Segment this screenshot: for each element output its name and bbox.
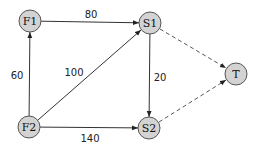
edge-s1-t xyxy=(160,29,226,68)
node-f2: F2 xyxy=(18,116,40,138)
node-s2: S2 xyxy=(138,117,160,139)
node-f1: F1 xyxy=(19,10,41,32)
edge-f2-s1 xyxy=(38,30,141,120)
node-label-s2: S2 xyxy=(142,122,157,135)
edge-f2-s2 xyxy=(40,127,138,128)
edge-s2-t xyxy=(159,80,226,122)
edge-s1-s2 xyxy=(149,34,150,117)
node-s1: S1 xyxy=(139,12,161,34)
node-label-f1: F1 xyxy=(23,15,38,28)
edge-label-s1-s2: 20 xyxy=(154,72,167,83)
flow-network-diagram: 80 60 100 20 140 F1 S1 T F2 S2 xyxy=(0,0,262,148)
edge-label-f1-s1: 80 xyxy=(85,9,98,20)
node-t: T xyxy=(225,63,247,85)
edge-f2-f1 xyxy=(29,32,30,116)
node-label-t: T xyxy=(232,68,240,81)
edge-label-f2-f1: 60 xyxy=(11,70,24,81)
edge-f1-s1 xyxy=(41,21,139,23)
node-label-f2: F2 xyxy=(22,121,37,134)
edge-label-f2-s2: 140 xyxy=(80,133,99,144)
node-label-s1: S1 xyxy=(143,17,158,30)
edge-label-f2-s1: 100 xyxy=(64,67,83,78)
